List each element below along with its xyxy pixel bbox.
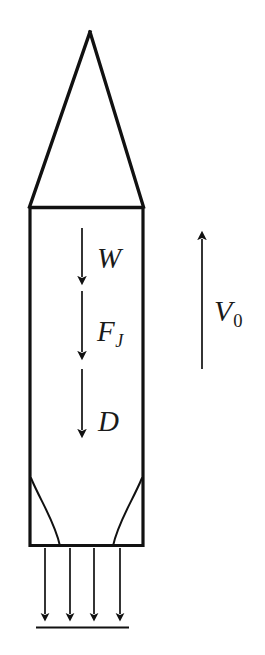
drag-symbol: D (98, 405, 119, 437)
velocity-label: V0 (214, 296, 243, 331)
weight-label: W (97, 244, 121, 273)
drag-label: D (98, 407, 119, 436)
jet-thrust-subscript: J (115, 331, 123, 351)
rocket-force-diagram: W FJ D V0 (0, 0, 265, 655)
weight-symbol: W (97, 242, 121, 274)
jet-thrust-label: FJ (97, 317, 123, 350)
body-tube-icon (30, 207, 144, 547)
exhaust-arrows-group (36, 548, 129, 628)
velocity-symbol: V (214, 294, 232, 327)
velocity-subscript: 0 (232, 310, 242, 331)
jet-thrust-symbol: F (97, 315, 115, 347)
nozzle-throat-icon (31, 478, 142, 546)
nose-cone-icon (30, 32, 144, 207)
